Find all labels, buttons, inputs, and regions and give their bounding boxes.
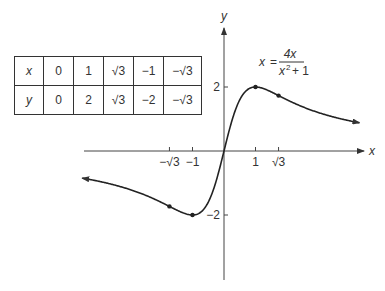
y-tick-label: 2 [213,80,220,94]
function-label-denominator-exp: 2 [286,63,291,72]
function-curve [224,87,359,151]
x-tick-label: −√3 [159,155,180,169]
x-tick-label: −1 [186,155,200,169]
x-tick-label: √3 [272,155,286,169]
y-axis-label: y [220,9,228,23]
data-point [276,93,280,97]
x-axis-label: x [368,144,376,158]
function-plot: x y −√3−11√32−2 x = 4x x 2 + 1 [0,0,385,291]
function-label-denominator-base: x [278,64,286,78]
data-point [253,85,257,89]
function-label-lhs: x [258,55,266,69]
data-point [190,213,194,217]
function-label: x = 4x x 2 + 1 [258,47,309,78]
x-tick-label: 1 [252,155,259,169]
data-point [167,204,171,208]
function-label-equals: = [270,55,277,69]
function-curve [82,151,224,215]
function-label-denominator-rest: + 1 [292,64,309,78]
function-label-numerator: 4x [284,47,298,61]
y-tick-label: −2 [206,208,220,222]
